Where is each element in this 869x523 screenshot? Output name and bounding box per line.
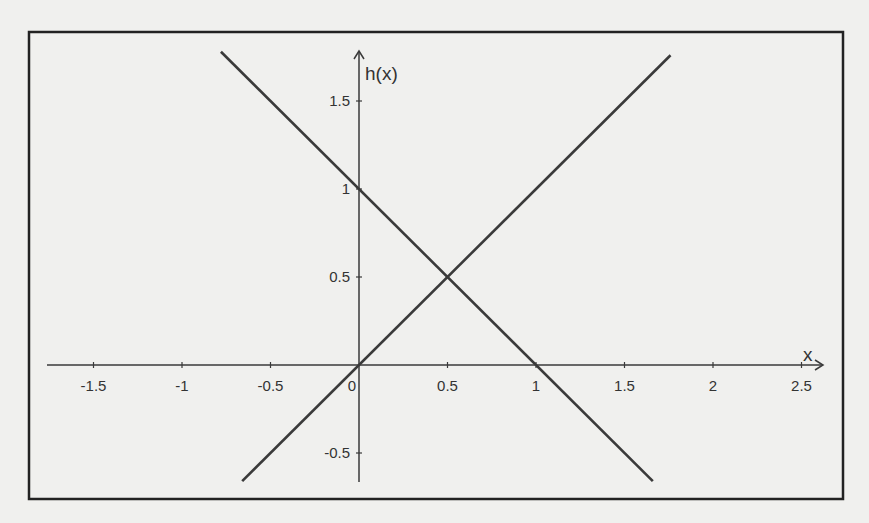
x-tick-label: -0.5 [258, 377, 284, 394]
y-tick-label: -0.5 [324, 444, 350, 461]
chart: -1.5-1-0.500.511.522.5 x -0.50.511.5 h(x… [0, 0, 869, 523]
line-chart-svg: -1.5-1-0.500.511.522.5 x -0.50.511.5 h(x… [0, 0, 869, 523]
x-axis-label: x [803, 344, 813, 365]
x-tick-label: 2 [709, 377, 717, 394]
y-tick-label: 0.5 [329, 268, 350, 285]
ascending-line [242, 55, 670, 481]
x-tick-label: 0 [348, 377, 356, 394]
y-axis: -0.50.511.5 h(x) [324, 51, 398, 482]
y-tick-label: 1 [342, 180, 350, 197]
x-tick-label: 1 [532, 377, 540, 394]
x-tick-label: -1 [175, 377, 188, 394]
x-ticks: -1.5-1-0.500.511.522.5 [81, 362, 812, 394]
x-tick-label: 1.5 [614, 377, 635, 394]
descending-line [221, 52, 653, 481]
x-axis: -1.5-1-0.500.511.522.5 x [47, 344, 823, 394]
y-axis-label: h(x) [365, 63, 398, 84]
y-ticks: -0.50.511.5 [324, 92, 362, 461]
x-tick-label: -1.5 [81, 377, 107, 394]
series-layer [221, 52, 671, 481]
x-tick-label: 0.5 [437, 377, 458, 394]
y-tick-label: 1.5 [329, 92, 350, 109]
x-tick-label: 2.5 [791, 377, 812, 394]
